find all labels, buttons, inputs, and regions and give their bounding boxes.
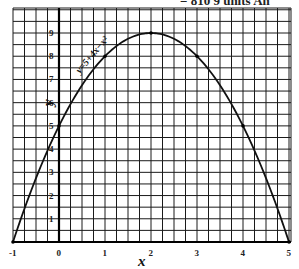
y-axis-label: y	[40, 99, 56, 108]
data-point	[11, 240, 15, 244]
data-point	[103, 54, 107, 58]
x-tick-label: 5	[287, 248, 292, 258]
y-tick-label: 7	[49, 74, 54, 84]
x-tick-label: 3	[195, 248, 200, 258]
x-axis-label: x	[137, 253, 146, 269]
y-tick-label: 3	[49, 167, 54, 177]
x-tick-label: 0	[57, 248, 62, 258]
y-tick-label: 9	[49, 28, 54, 38]
y-tick-label: 8	[49, 51, 54, 61]
y-tick-label: 1	[49, 214, 54, 224]
data-point	[57, 124, 61, 128]
x-tick-label: 4	[241, 248, 246, 258]
grid-lines	[13, 8, 291, 242]
data-point	[149, 31, 153, 35]
data-point	[195, 54, 199, 58]
parabola-chart: -1012345123456789 y=5+4x−x² y x	[0, 0, 299, 269]
y-tick-label: 5	[49, 121, 54, 131]
y-tick-label: 2	[49, 191, 54, 201]
x-tick-label: -1	[9, 248, 17, 258]
data-point	[287, 240, 291, 244]
data-point	[241, 124, 245, 128]
x-tick-label: 1	[103, 248, 108, 258]
x-tick-label: 2	[149, 248, 154, 258]
